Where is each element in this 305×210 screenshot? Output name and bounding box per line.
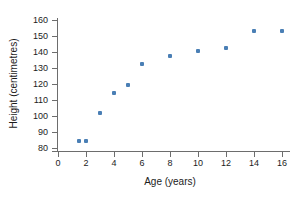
plot-area (58, 20, 282, 148)
x-axis-tick (58, 152, 59, 157)
y-axis-tick-label: 80 (22, 144, 48, 153)
y-axis-tick-label: 160 (22, 16, 48, 25)
y-axis-title: Height (centimetres) (8, 19, 19, 149)
data-point (126, 83, 130, 87)
y-axis-tick-label: 140 (22, 48, 48, 57)
x-axis-tick (254, 152, 255, 157)
data-point (168, 54, 172, 58)
y-axis-tick-label: 120 (22, 80, 48, 89)
x-axis-tick (142, 152, 143, 157)
x-axis-tick-label: 10 (188, 159, 208, 168)
y-axis-tick (52, 132, 57, 133)
scatter-chart: 8090100110120130140150160 0246810121416 … (0, 0, 305, 210)
data-point (196, 49, 200, 53)
x-axis-tick (170, 152, 171, 157)
x-axis-tick (198, 152, 199, 157)
y-axis-tick (52, 52, 57, 53)
x-axis-tick-label: 8 (160, 159, 180, 168)
y-axis-tick (52, 20, 57, 21)
x-axis-tick (226, 152, 227, 157)
y-axis-tick-label: 130 (22, 64, 48, 73)
y-axis-tick-label: 90 (22, 128, 48, 137)
data-point (140, 62, 144, 66)
x-axis-tick (282, 152, 283, 157)
x-axis-tick-label: 6 (132, 159, 152, 168)
y-axis-tick (52, 84, 57, 85)
y-axis-tick (52, 116, 57, 117)
x-axis-tick-label: 2 (76, 159, 96, 168)
data-point (84, 139, 88, 143)
y-axis-tick (52, 100, 57, 101)
y-axis-tick-label: 100 (22, 112, 48, 121)
x-axis-tick-label: 14 (244, 159, 264, 168)
data-point (77, 139, 81, 143)
x-axis-tick-label: 16 (272, 159, 292, 168)
x-axis-tick-label: 4 (104, 159, 124, 168)
data-point (98, 111, 102, 115)
y-axis-tick-label: 110 (22, 96, 48, 105)
y-axis-tick-labels: 8090100110120130140150160 (20, 0, 48, 210)
x-axis-tick (114, 152, 115, 157)
data-point (112, 91, 116, 95)
x-axis-tick (86, 152, 87, 157)
y-axis-tick (52, 36, 57, 37)
y-axis-tick (52, 148, 57, 149)
data-point (224, 46, 228, 50)
y-axis-tick (52, 68, 57, 69)
x-axis-title: Age (years) (58, 176, 282, 187)
x-axis-tick-label: 0 (48, 159, 68, 168)
x-axis-tick-label: 12 (216, 159, 236, 168)
y-axis-tick-label: 150 (22, 32, 48, 41)
data-point (280, 29, 284, 33)
data-point (252, 29, 256, 33)
